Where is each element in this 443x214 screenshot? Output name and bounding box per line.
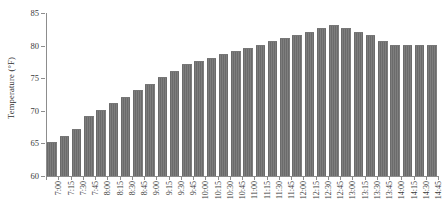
x-axis-tick-label: 10:15 <box>215 181 223 199</box>
x-axis-tick-mark <box>205 176 206 180</box>
y-axis-title-text: Temperature (°F) <box>6 57 16 119</box>
bar <box>96 110 106 176</box>
bar <box>354 32 364 176</box>
x-axis-tick-mark <box>156 176 157 180</box>
y-axis-tick-label: 75 <box>19 74 39 83</box>
x-axis-tick-mark <box>83 176 84 180</box>
x-axis-tick-mark <box>340 176 341 180</box>
x-axis-tick-mark <box>254 176 255 180</box>
x-axis-tick-label: 14:15 <box>411 181 419 199</box>
x-axis-tick-label: 10:00 <box>202 181 210 199</box>
bar <box>341 28 351 175</box>
bar <box>403 45 413 176</box>
bar <box>390 45 400 176</box>
x-axis-tick-label: 7:30 <box>80 181 88 195</box>
bar <box>133 90 143 176</box>
y-axis-tick-label: 60 <box>19 171 39 180</box>
x-axis-tick-label: 10:45 <box>239 181 247 199</box>
bar <box>84 116 94 176</box>
bar <box>121 97 131 176</box>
x-axis-tick-label: 7:15 <box>68 181 76 195</box>
bar <box>219 54 229 175</box>
bar <box>427 45 437 176</box>
x-axis-tick-label: 13:45 <box>386 181 394 199</box>
x-axis-tick-mark <box>193 176 194 180</box>
x-axis-tick-mark <box>414 176 415 180</box>
x-axis-tick-mark <box>401 176 402 180</box>
x-axis-tick-label: 7:45 <box>92 181 100 195</box>
y-axis-tick-label: 85 <box>19 9 39 18</box>
x-axis-tick-label: 7:00 <box>55 181 63 195</box>
bar <box>366 35 376 176</box>
x-axis-tick-mark <box>169 176 170 180</box>
y-axis-tick-mark <box>41 143 45 144</box>
y-axis-tick-mark <box>41 78 45 79</box>
x-axis-tick-label: 11:15 <box>264 181 272 199</box>
y-axis-tick-mark <box>41 46 45 47</box>
x-axis-tick-label: 12:45 <box>337 181 345 199</box>
x-axis-tick-label: 10:30 <box>227 181 235 199</box>
x-axis-tick-label: 13:15 <box>362 181 370 199</box>
x-axis-tick-label: 11:45 <box>288 181 296 199</box>
x-axis-tick-mark <box>242 176 243 180</box>
x-axis-tick-label: 9:30 <box>178 181 186 195</box>
x-axis-tick-label: 9:45 <box>190 181 198 195</box>
x-axis-tick-mark <box>328 176 329 180</box>
bar <box>207 58 217 176</box>
bar <box>305 32 315 176</box>
bar <box>158 77 168 176</box>
bar <box>182 64 192 176</box>
x-axis-tick-mark <box>95 176 96 180</box>
x-axis-tick-label: 14:30 <box>423 181 431 199</box>
x-axis-tick-label: 12:00 <box>300 181 308 199</box>
bar <box>72 129 82 176</box>
bar <box>145 84 155 176</box>
x-axis-tick-label: 14:00 <box>398 181 406 199</box>
y-axis-tick-mark <box>41 176 45 177</box>
x-axis-tick-mark <box>132 176 133 180</box>
x-axis-tick-label: 13:30 <box>374 181 382 199</box>
x-axis-tick-label: 12:15 <box>313 181 321 199</box>
x-axis-tick-mark <box>389 176 390 180</box>
x-axis-tick-mark <box>107 176 108 180</box>
y-axis-tick-label: 80 <box>19 41 39 50</box>
x-axis-tick-mark <box>218 176 219 180</box>
x-axis-tick-mark <box>438 176 439 180</box>
y-axis-tick-label: 65 <box>19 139 39 148</box>
bar <box>415 45 425 176</box>
x-axis-tick-mark <box>291 176 292 180</box>
x-axis-tick-label: 8:15 <box>117 181 125 195</box>
x-axis-tick-label: 14:45 <box>435 181 443 199</box>
bar <box>170 71 180 176</box>
bar <box>256 45 266 176</box>
x-axis-tick-mark <box>144 176 145 180</box>
bar <box>268 41 278 175</box>
x-axis-tick-label: 8:45 <box>141 181 149 195</box>
x-axis-tick-mark <box>46 176 47 180</box>
x-axis-tick-mark <box>71 176 72 180</box>
bar <box>231 51 241 176</box>
x-axis-tick-mark <box>267 176 268 180</box>
plot-area <box>46 13 438 176</box>
x-axis-tick-mark <box>303 176 304 180</box>
x-axis-tick-mark <box>230 176 231 180</box>
bar <box>378 41 388 175</box>
bar <box>292 35 302 176</box>
bar <box>194 61 204 176</box>
x-axis-tick-mark <box>58 176 59 180</box>
x-axis-tick-label: 11:30 <box>276 181 284 199</box>
bar <box>60 136 70 176</box>
x-axis-tick-label: 13:00 <box>349 181 357 199</box>
x-axis-tick-mark <box>352 176 353 180</box>
bar <box>280 38 290 176</box>
bar <box>317 28 327 175</box>
x-axis-tick-label: 11:00 <box>251 181 259 199</box>
temperature-bar-chart: Temperature (°F) 606570758085 7:007:157:… <box>0 0 443 214</box>
bar <box>243 48 253 176</box>
x-axis-tick-mark <box>181 176 182 180</box>
y-axis-tick-mark <box>41 111 45 112</box>
bar <box>329 25 339 176</box>
bar <box>47 142 57 176</box>
x-axis-tick-label: 12:30 <box>325 181 333 199</box>
x-axis-tick-mark <box>426 176 427 180</box>
